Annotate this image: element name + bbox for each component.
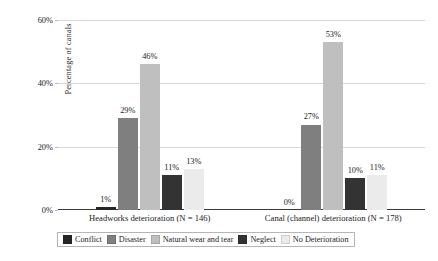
- legend-item[interactable]: Natural wear and tear: [151, 235, 234, 244]
- legend-label: Disaster: [119, 235, 146, 244]
- bar: [345, 178, 365, 210]
- bar: [184, 169, 204, 210]
- bar-slot: 29%: [118, 20, 138, 210]
- bar-slot: 0%: [279, 20, 299, 210]
- bar-slot: 13%: [184, 20, 204, 210]
- chart-legend: ConflictDisasterNatural wear and tearNeg…: [57, 232, 355, 247]
- legend-swatch-icon: [238, 235, 247, 244]
- y-tick-label: 40%: [38, 79, 53, 88]
- bar-value-label: 13%: [186, 158, 201, 166]
- legend-swatch-icon: [107, 235, 116, 244]
- bar-group: 0%27%53%10%11%: [242, 20, 426, 210]
- legend-swatch-icon: [281, 235, 290, 244]
- bar-value-label: 0%: [284, 199, 295, 207]
- legend-label: Natural wear and tear: [163, 235, 234, 244]
- y-tick-label: 60%: [38, 16, 53, 25]
- bar-slot: 1%: [96, 20, 116, 210]
- bar-value-label: 11%: [164, 164, 179, 172]
- bar-value-label: 10%: [348, 167, 363, 175]
- bar: [118, 118, 138, 210]
- y-tick-label: 20%: [38, 142, 53, 151]
- bar-value-label: 53%: [326, 31, 341, 39]
- legend-item[interactable]: Neglect: [238, 235, 275, 244]
- y-tick-label: 0%: [42, 206, 53, 215]
- bar: [367, 175, 387, 210]
- bar-value-label: 27%: [304, 113, 319, 121]
- bar-slot: 11%: [367, 20, 387, 210]
- bar-slot: 10%: [345, 20, 365, 210]
- legend-swatch-icon: [63, 235, 72, 244]
- legend-label: Neglect: [250, 235, 275, 244]
- plot-area: 0%20%40%60%1%29%46%11%13%0%27%53%10%11%: [58, 20, 425, 210]
- bar: [323, 42, 343, 210]
- legend-label: Conflict: [75, 235, 102, 244]
- legend-item[interactable]: Disaster: [107, 235, 146, 244]
- x-axis-category-label: Canal (channel) deterioration (N = 178): [242, 213, 426, 223]
- bar-slot: 46%: [140, 20, 160, 210]
- bar-group: 1%29%46%11%13%: [58, 20, 242, 210]
- bar-value-label: 1%: [100, 196, 111, 204]
- bar-value-label: 11%: [370, 164, 385, 172]
- bar: [96, 207, 116, 210]
- bar: [162, 175, 182, 210]
- bar-slot: 27%: [301, 20, 321, 210]
- bar: [301, 125, 321, 211]
- bar-slot: 53%: [323, 20, 343, 210]
- y-tick-mark: [55, 210, 58, 211]
- legend-item[interactable]: No Deterioration: [281, 235, 349, 244]
- bar-value-label: 29%: [120, 107, 135, 115]
- bar-value-label: 46%: [142, 53, 157, 61]
- legend-label: No Deterioration: [293, 235, 349, 244]
- bar-slot: 11%: [162, 20, 182, 210]
- legend-swatch-icon: [151, 235, 160, 244]
- legend-item[interactable]: Conflict: [63, 235, 102, 244]
- x-axis-category-label: Headworks deterioration (N = 146): [58, 213, 242, 223]
- bar: [140, 64, 160, 210]
- bar-chart: Percentage of canals 0%20%40%60%1%29%46%…: [0, 0, 438, 261]
